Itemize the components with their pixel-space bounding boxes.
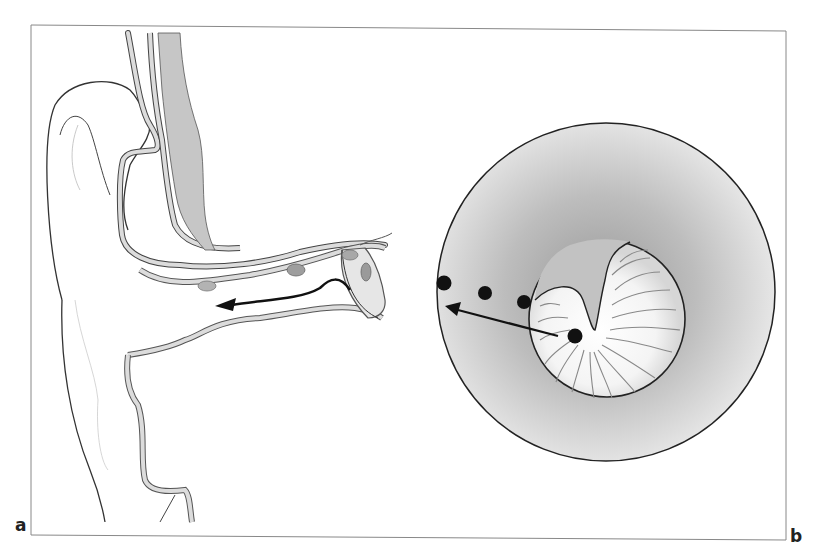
migration-arrow-a (232, 280, 350, 305)
panel-b-tympanic-view (437, 123, 776, 461)
panel-a-ear-section (47, 33, 392, 522)
panel-label-a: a (15, 515, 26, 535)
ear-migration-figure (0, 0, 818, 555)
panel-label-b: b (790, 526, 802, 546)
